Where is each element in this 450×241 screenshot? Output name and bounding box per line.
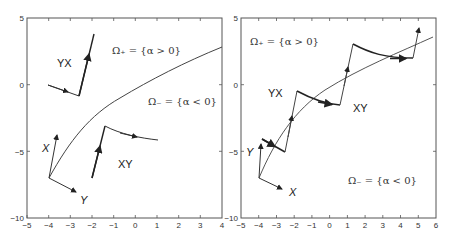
left-xtick: 3 — [198, 221, 203, 230]
left-y-vector-arrow — [49, 178, 76, 192]
left-yx-arrow — [79, 54, 89, 96]
left-boundary-curve — [49, 47, 222, 178]
right-xtick: 3 — [381, 221, 386, 230]
left-omega-minus-label: Ω₋ = {α < 0} — [148, 96, 217, 107]
right-path-dark-curve — [353, 44, 413, 58]
right-xy-label: XY — [353, 102, 368, 114]
right-plot-frame — [241, 18, 436, 218]
left-ytick: −5 — [15, 148, 25, 157]
right-xtick: 0 — [327, 221, 332, 230]
left-xy-label: XY — [118, 158, 133, 170]
left-yx-arrow — [48, 85, 68, 92]
left-y-axis-label: Y — [80, 194, 88, 206]
right-xtick: −3 — [272, 221, 282, 230]
right-xtick: 6 — [434, 221, 439, 230]
right-xtick: 4 — [398, 221, 403, 230]
left-xy-arrow — [120, 133, 137, 137]
right-xtick: −2 — [290, 221, 300, 230]
left-ytick: 5 — [20, 14, 25, 23]
right-xtick: 5 — [416, 221, 421, 230]
right-omega-plus-label: Ω₊ = {α > 0} — [250, 36, 319, 47]
left-ytick: 0 — [20, 81, 25, 90]
left-xtick: 0 — [133, 221, 138, 230]
left-xtick: 1 — [155, 221, 160, 230]
left-ytick: −10 — [10, 214, 24, 223]
right-ytick: −10 — [224, 214, 238, 223]
right-xtick: −1 — [307, 221, 317, 230]
left-xtick: 2 — [176, 221, 181, 230]
left-plot: −5 −4 −3 −2 −1 0 1 2 3 4 5 0 −5 −10 — [10, 14, 224, 230]
right-path-arrow — [288, 116, 292, 137]
right-ytick: 0 — [234, 81, 239, 90]
left-omega-plus-label: Ω₊ = {α > 0} — [112, 45, 181, 56]
right-yx-label: YX — [268, 87, 283, 99]
right-path-final-arrow — [413, 28, 419, 58]
right-omega-minus-label: Ω₋ = {α < 0} — [348, 175, 417, 186]
right-x-vector-arrow — [259, 178, 282, 189]
left-xtick: −4 — [44, 221, 54, 230]
left-x-axis-label: X — [41, 142, 50, 154]
right-path-arrow — [262, 139, 275, 147]
left-xtick: −1 — [109, 221, 119, 230]
right-x-axis — [241, 18, 436, 218]
right-xtick: 2 — [363, 221, 368, 230]
right-xtick: 1 — [345, 221, 350, 230]
left-xtick: −3 — [66, 221, 76, 230]
left-xy-arrow — [92, 146, 100, 178]
left-xy-path-curve — [105, 126, 158, 140]
right-x-axis-label: X — [288, 186, 297, 198]
left-xtick: −2 — [87, 221, 97, 230]
right-y-axis-label: Y — [246, 146, 254, 158]
right-path-dark-curve — [297, 91, 340, 105]
left-yx-label: YX — [57, 57, 72, 69]
right-xtick: −4 — [254, 221, 264, 230]
right-ytick: −5 — [229, 148, 239, 157]
figure: −5 −4 −3 −2 −1 0 1 2 3 4 5 0 −5 −10 — [0, 0, 450, 241]
right-plot: −5 −4 −3 −2 −1 0 1 2 3 4 5 6 5 0 −5 −10 — [224, 14, 438, 230]
right-ytick: 5 — [234, 14, 239, 23]
